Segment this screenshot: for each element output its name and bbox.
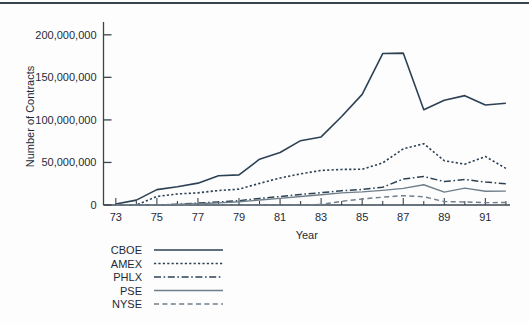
x-axis: 73757779818385878991: [104, 198, 511, 223]
legend-label-cboe: CBOE: [111, 244, 142, 256]
series-lines: [116, 53, 506, 205]
legend-label-amex: AMEX: [111, 258, 143, 270]
x-tick-label: 81: [274, 211, 286, 223]
x-tick-label: 87: [397, 211, 409, 223]
x-tick-label: 73: [110, 211, 122, 223]
x-axis-title: Year: [296, 229, 319, 241]
x-tick-label: 91: [479, 211, 491, 223]
y-axis-title: Number of Contracts: [24, 65, 36, 167]
x-tick-label: 75: [151, 211, 163, 223]
y-tick-label: 200,000,000: [35, 29, 96, 41]
legend-label-nyse: NYSE: [112, 298, 142, 310]
x-tick-label: 77: [192, 211, 204, 223]
x-tick-label: 85: [356, 211, 368, 223]
line-chart-canvas: 050,000,000100,000,000150,000,000200,000…: [0, 0, 529, 323]
chart-figure: 050,000,000100,000,000150,000,000200,000…: [0, 0, 529, 323]
y-axis: 050,000,000100,000,000150,000,000200,000…: [35, 22, 111, 211]
chart-legend: CBOEAMEXPHLXPSENYSE: [111, 244, 223, 310]
legend-label-phlx: PHLX: [113, 271, 142, 283]
series-line-phlx: [116, 176, 506, 205]
x-tick-label: 89: [438, 211, 450, 223]
y-tick-label: 100,000,000: [35, 114, 96, 126]
legend-label-pse: PSE: [120, 285, 142, 297]
y-tick-label: 0: [90, 199, 96, 211]
y-tick-label: 150,000,000: [35, 71, 96, 83]
y-tick-label: 50,000,000: [41, 156, 96, 168]
x-tick-label: 83: [315, 211, 327, 223]
x-tick-label: 79: [233, 211, 245, 223]
